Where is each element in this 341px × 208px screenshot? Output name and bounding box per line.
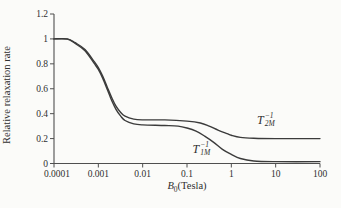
y-tick-label: 0 [43,159,48,169]
y-tick-label: 0.8 [36,59,48,69]
curve-label-t2m: T−12M [257,112,275,128]
y-tick-label: 0.6 [36,84,48,94]
axis-tick-labels: 00.20.40.60.811.20.00010.0010.010.111010… [36,9,327,179]
curves [54,39,320,162]
x-tick-label: 0.001 [88,169,110,179]
curve-label-t2m-subscript: 2M [265,120,275,128]
curve-T2M-inverse-relaxation-rate [54,39,320,139]
x-axis-unit: (Tesla) [178,180,208,192]
relaxation-dispersion-figure: 00.20.40.60.811.20.00010.0010.010.111010… [0,0,341,208]
y-tick-label: 0.4 [36,109,48,119]
x-axis-title: B0(Tesla) [167,180,207,194]
x-tick-label: 0.0001 [44,169,70,179]
curve-label-t1m-subscript: 1M [200,149,210,157]
x-tick-label: 1 [229,169,234,179]
curve-label-t1m-symbol: T [192,143,199,155]
curve-label-t2m-symbol: T [257,114,264,126]
y-axis-title: Relative relaxation rate [1,46,12,144]
x-tick-label: 0.1 [181,169,193,179]
axis-ticks [50,14,320,168]
y-tick-label: 1.2 [36,9,48,19]
axes [54,14,320,164]
x-tick-label: 10 [271,169,281,179]
x-tick-label: 0.01 [134,169,151,179]
x-tick-label: 100 [313,169,328,179]
chart-canvas: 00.20.40.60.811.20.00010.0010.010.111010… [0,0,341,208]
curve-label-t1m: T−11M [192,141,210,157]
y-tick-label: 1 [43,34,48,44]
curve-T1M-inverse-relaxation-rate [54,39,320,162]
y-tick-label: 0.2 [36,134,48,144]
